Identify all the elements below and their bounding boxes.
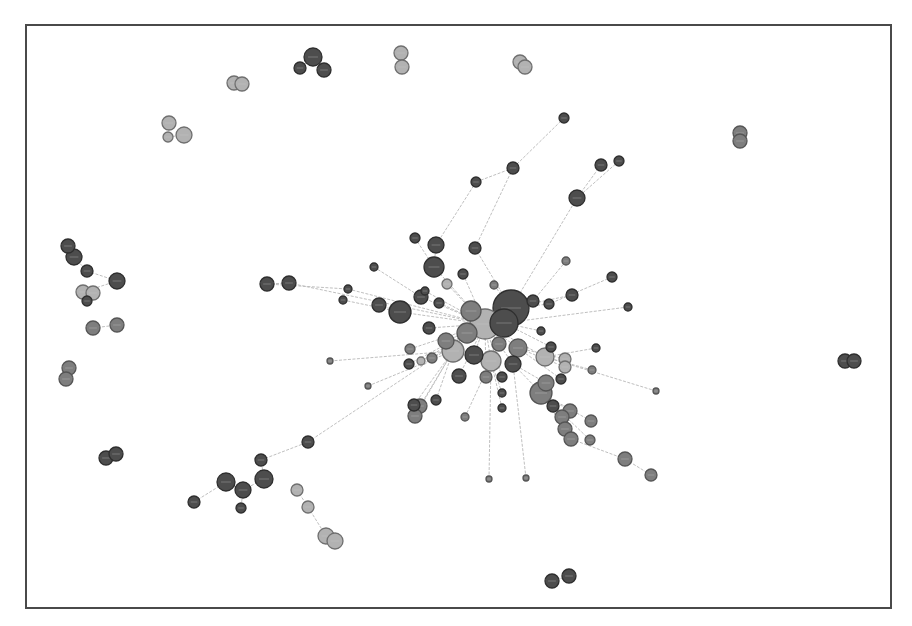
- graph-node[interactable]: [507, 162, 519, 174]
- graph-node[interactable]: [109, 447, 123, 461]
- graph-node[interactable]: [556, 374, 566, 384]
- graph-node[interactable]: [317, 63, 331, 77]
- graph-node[interactable]: [498, 389, 506, 397]
- graph-node[interactable]: [372, 298, 386, 312]
- graph-node[interactable]: [438, 333, 454, 349]
- graph-node[interactable]: [733, 134, 747, 148]
- graph-node[interactable]: [505, 356, 521, 372]
- graph-node[interactable]: [469, 242, 481, 254]
- graph-node[interactable]: [645, 469, 657, 481]
- graph-node[interactable]: [461, 301, 481, 321]
- graph-node[interactable]: [82, 296, 92, 306]
- graph-node[interactable]: [480, 371, 492, 383]
- graph-node[interactable]: [545, 574, 559, 588]
- graph-node[interactable]: [547, 400, 559, 412]
- graph-node[interactable]: [624, 303, 632, 311]
- graph-node[interactable]: [421, 287, 429, 295]
- graph-node[interactable]: [163, 132, 173, 142]
- graph-node[interactable]: [59, 372, 73, 386]
- graph-node[interactable]: [618, 452, 632, 466]
- graph-node[interactable]: [410, 233, 420, 243]
- graph-node[interactable]: [595, 159, 607, 171]
- graph-node[interactable]: [291, 484, 303, 496]
- graph-node[interactable]: [405, 344, 415, 354]
- graph-node[interactable]: [481, 351, 501, 371]
- graph-node[interactable]: [559, 361, 571, 373]
- graph-node[interactable]: [302, 501, 314, 513]
- graph-node[interactable]: [471, 177, 481, 187]
- graph-node[interactable]: [344, 285, 352, 293]
- graph-node[interactable]: [81, 265, 93, 277]
- graph-node[interactable]: [417, 357, 425, 365]
- graph-node[interactable]: [527, 295, 539, 307]
- graph-node[interactable]: [566, 289, 578, 301]
- graph-node[interactable]: [255, 454, 267, 466]
- graph-node[interactable]: [562, 257, 570, 265]
- graph-node[interactable]: [255, 470, 273, 488]
- graph-node[interactable]: [538, 375, 554, 391]
- graph-node[interactable]: [585, 435, 595, 445]
- graph-node[interactable]: [431, 395, 441, 405]
- graph-node[interactable]: [457, 323, 477, 343]
- graph-node[interactable]: [585, 415, 597, 427]
- graph-node[interactable]: [847, 354, 861, 368]
- graph-node[interactable]: [537, 327, 545, 335]
- graph-node[interactable]: [428, 237, 444, 253]
- graph-node[interactable]: [442, 279, 452, 289]
- graph-node[interactable]: [588, 366, 596, 374]
- graph-node[interactable]: [176, 127, 192, 143]
- graph-node[interactable]: [365, 383, 371, 389]
- graph-node[interactable]: [235, 482, 251, 498]
- network-graph-canvas[interactable]: [27, 26, 890, 607]
- graph-node[interactable]: [109, 273, 125, 289]
- graph-node[interactable]: [162, 116, 176, 130]
- graph-node[interactable]: [592, 344, 600, 352]
- graph-node[interactable]: [327, 358, 333, 364]
- graph-node[interactable]: [61, 239, 75, 253]
- graph-node[interactable]: [282, 276, 296, 290]
- graph-node[interactable]: [434, 298, 444, 308]
- graph-node[interactable]: [559, 113, 569, 123]
- graph-node[interactable]: [394, 46, 408, 60]
- graph-node[interactable]: [490, 281, 498, 289]
- graph-node[interactable]: [458, 269, 468, 279]
- graph-node[interactable]: [260, 277, 274, 291]
- graph-node[interactable]: [569, 190, 585, 206]
- graph-node[interactable]: [236, 503, 246, 513]
- graph-node[interactable]: [327, 533, 343, 549]
- graph-node[interactable]: [408, 399, 420, 411]
- graph-node[interactable]: [461, 413, 469, 421]
- graph-node[interactable]: [423, 322, 435, 334]
- graph-node[interactable]: [370, 263, 378, 271]
- graph-node[interactable]: [235, 77, 249, 91]
- graph-node[interactable]: [509, 339, 527, 357]
- graph-node[interactable]: [302, 436, 314, 448]
- graph-node[interactable]: [490, 309, 518, 337]
- graph-node[interactable]: [607, 272, 617, 282]
- graph-node[interactable]: [110, 318, 124, 332]
- graph-node[interactable]: [339, 296, 347, 304]
- graph-node[interactable]: [188, 496, 200, 508]
- graph-node[interactable]: [427, 353, 437, 363]
- graph-node[interactable]: [217, 473, 235, 491]
- graph-node[interactable]: [304, 48, 322, 66]
- graph-node[interactable]: [653, 388, 659, 394]
- graph-node[interactable]: [389, 301, 411, 323]
- graph-node[interactable]: [294, 62, 306, 74]
- graph-node[interactable]: [546, 342, 556, 352]
- graph-node[interactable]: [564, 432, 578, 446]
- graph-node[interactable]: [452, 369, 466, 383]
- graph-node[interactable]: [395, 60, 409, 74]
- graph-node[interactable]: [498, 404, 506, 412]
- graph-node[interactable]: [86, 321, 100, 335]
- graph-node[interactable]: [497, 372, 507, 382]
- graph-node[interactable]: [518, 60, 532, 74]
- graph-node[interactable]: [424, 257, 444, 277]
- graph-node[interactable]: [562, 569, 576, 583]
- graph-node[interactable]: [544, 299, 554, 309]
- graph-node[interactable]: [486, 476, 492, 482]
- graph-node[interactable]: [465, 346, 483, 364]
- graph-node[interactable]: [404, 359, 414, 369]
- graph-node[interactable]: [614, 156, 624, 166]
- graph-node[interactable]: [492, 337, 506, 351]
